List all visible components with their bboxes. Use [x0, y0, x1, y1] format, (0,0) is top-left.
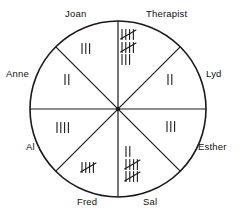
tally-marks-sal [124, 145, 143, 183]
sector-label-esther: Esther [198, 141, 227, 152]
tally-marks-lyd [166, 73, 176, 86]
sector-label-sal: Sal [143, 196, 157, 207]
tally-marks-anne [63, 73, 73, 86]
tally-line [120, 28, 139, 41]
center-point [116, 107, 120, 111]
sector-label-al: Al [26, 141, 35, 152]
tally-line [63, 73, 73, 86]
tally-line [124, 158, 143, 171]
tally-line [120, 41, 139, 54]
sector-label-fred: Fred [77, 196, 97, 207]
tally-line [165, 120, 178, 133]
sector-label-anne: Anne [6, 68, 29, 79]
sector-label-therapist: Therapist [146, 8, 187, 19]
tally-line [124, 145, 143, 158]
tally-marks-fred [80, 161, 99, 174]
sector-label-lyd: Lyd [206, 68, 222, 79]
tally-line [80, 161, 99, 174]
tally-line [80, 42, 93, 55]
tally-line [55, 121, 72, 134]
sector-label-joan: Joan [65, 8, 86, 19]
tally-marks-joan [80, 42, 93, 55]
tally-line [120, 53, 139, 66]
tally-marks-therapist [120, 28, 139, 66]
tally-line [124, 170, 143, 183]
tally-line [166, 73, 176, 86]
tally-circle-figure: Therapist Lyd Esther Sal Fred Al Anne Jo… [0, 0, 242, 223]
tally-marks-al [55, 121, 72, 134]
tally-marks-esther [165, 120, 178, 133]
